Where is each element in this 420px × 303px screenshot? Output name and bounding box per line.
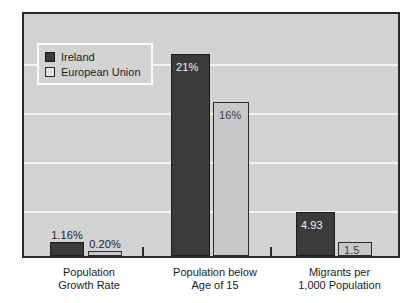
bar-chart: 1.16% 0.20% 21% 16% 4.93 1.5 Ireland <box>0 0 420 303</box>
bar-value-label: 1.16% <box>51 229 83 241</box>
gridline <box>24 211 398 213</box>
legend-item-label: Ireland <box>61 51 95 63</box>
plot-area: 1.16% 0.20% 21% 16% 4.93 1.5 Ireland <box>22 12 400 258</box>
bar-ireland-migrants-per-1000[interactable]: 4.93 <box>296 212 335 256</box>
bar-ireland-population-below-age-15[interactable]: 21% <box>171 54 210 256</box>
bar-value-label: 1.5 <box>344 244 360 256</box>
bar-value-label: 4.93 <box>301 219 323 231</box>
gridline <box>24 162 398 164</box>
bar-value-label: 16% <box>219 109 241 121</box>
category-label-line1: Migrants per <box>309 266 370 278</box>
legend-item-ireland[interactable]: Ireland <box>45 49 141 64</box>
legend: Ireland European Union <box>37 43 153 85</box>
category-label-line2: Growth Rate <box>24 279 154 292</box>
axis-tick <box>142 247 144 256</box>
axis-tick <box>270 247 272 256</box>
bar-eu-population-growth-rate[interactable]: 0.20% <box>88 251 122 256</box>
bar-ireland-population-growth-rate[interactable]: 1.16% <box>50 242 84 256</box>
legend-item-label: European Union <box>61 66 141 78</box>
legend-swatch-icon <box>45 52 55 62</box>
category-label-population-growth-rate: Population Growth Rate <box>24 266 154 292</box>
bar-value-label: 0.20% <box>89 238 121 250</box>
bar-eu-population-below-age-15[interactable]: 16% <box>213 102 249 256</box>
category-label-line1: Population below <box>173 266 257 278</box>
gridline <box>24 113 398 115</box>
legend-item-european-union[interactable]: European Union <box>45 64 141 79</box>
category-label-population-below-age-15: Population below Age of 15 <box>145 266 285 292</box>
bar-eu-migrants-per-1000[interactable]: 1.5 <box>338 242 372 256</box>
bar-value-label: 21% <box>176 61 198 73</box>
category-label-line1: Population <box>63 266 115 278</box>
legend-swatch-icon <box>45 67 55 77</box>
category-label-line2: 1,000 Population <box>272 279 407 292</box>
category-label-migrants-per-1000: Migrants per 1,000 Population <box>272 266 407 292</box>
category-label-line2: Age of 15 <box>145 279 285 292</box>
